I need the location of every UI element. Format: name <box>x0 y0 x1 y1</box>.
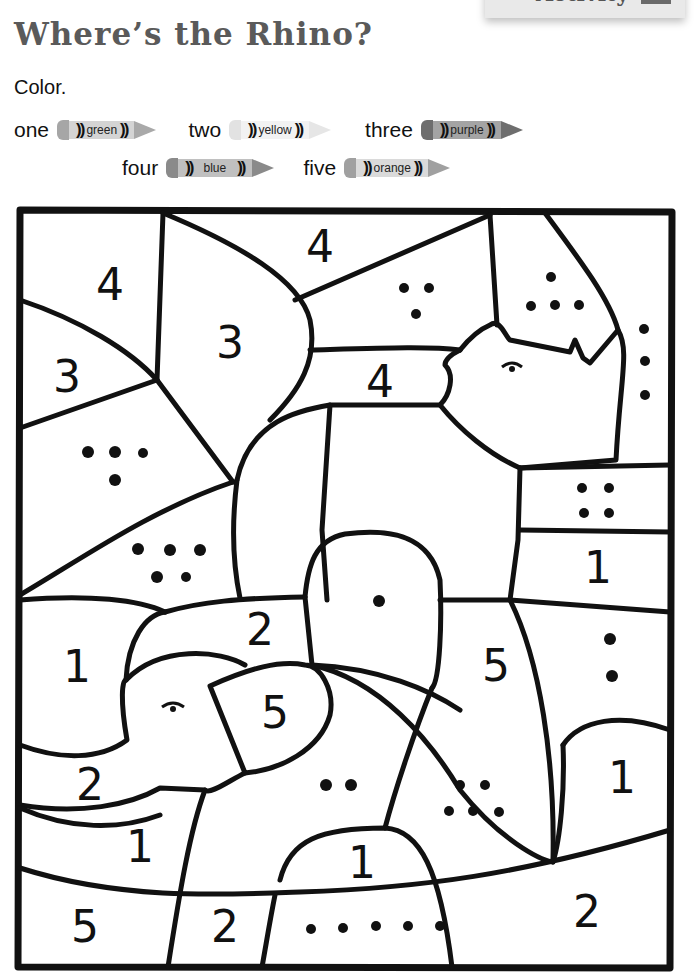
color-key-five: five ))orange)) <box>304 156 451 180</box>
orange-crayon-icon: ))orange)) <box>344 158 450 178</box>
key-number-word: two <box>188 118 221 142</box>
dots-1-center <box>373 595 385 607</box>
region-number: 1 <box>608 752 636 803</box>
region-number: 1 <box>348 837 376 888</box>
color-key-three: three ))purple)) <box>365 118 523 142</box>
region-number: 1 <box>126 821 154 872</box>
crayon-color-label: purple <box>450 123 483 137</box>
yellow-crayon-icon: ))yellow)) <box>229 120 331 140</box>
color-key-one: one ))green)) <box>14 118 156 142</box>
region-number: 5 <box>482 640 510 691</box>
color-by-number-picture: 4 3 3 4 4 1 1 2 5 5 2 1 1 1 5 2 2 <box>14 206 680 972</box>
crayon-color-label: orange <box>374 161 411 175</box>
region-number: 2 <box>246 604 274 655</box>
activity-label: Activity <box>536 0 629 2</box>
purple-crayon-icon: ))purple)) <box>421 120 523 140</box>
activity-tab: Activity ! <box>485 0 685 18</box>
blue-crayon-icon: ))blue)) <box>166 158 273 178</box>
region-number: 2 <box>211 901 239 952</box>
key-number-word: one <box>14 118 49 142</box>
region-number: 5 <box>71 901 99 952</box>
region-number: 1 <box>584 542 612 593</box>
key-number-word: five <box>304 156 337 180</box>
color-key-two: two ))yellow)) <box>188 118 331 142</box>
region-number: 3 <box>53 351 81 402</box>
instruction-text: Color. <box>14 76 66 99</box>
region-number: 3 <box>216 317 244 368</box>
region-number: 4 <box>306 221 334 272</box>
exclamation-icon: ! <box>641 0 671 4</box>
green-crayon-icon: ))green)) <box>57 120 156 140</box>
region-number: 1 <box>63 641 91 692</box>
crayon-color-label: blue <box>204 161 227 175</box>
region-number: 4 <box>366 356 394 407</box>
color-key-four: four ))blue)) <box>122 156 274 180</box>
color-key-row-1: one ))green)) two ))yellow)) three ))pur… <box>14 118 549 142</box>
color-key-row-2: four ))blue)) five ))orange)) <box>122 156 476 180</box>
key-number-word: three <box>365 118 413 142</box>
crayon-color-label: yellow <box>258 123 291 137</box>
key-number-word: four <box>122 156 158 180</box>
region-number: 4 <box>96 259 124 310</box>
crayon-color-label: green <box>86 123 117 137</box>
page-title: Where’s the Rhino? <box>14 16 373 52</box>
region-number: 2 <box>76 759 104 810</box>
region-number: 2 <box>573 886 601 937</box>
region-number: 5 <box>261 687 289 738</box>
